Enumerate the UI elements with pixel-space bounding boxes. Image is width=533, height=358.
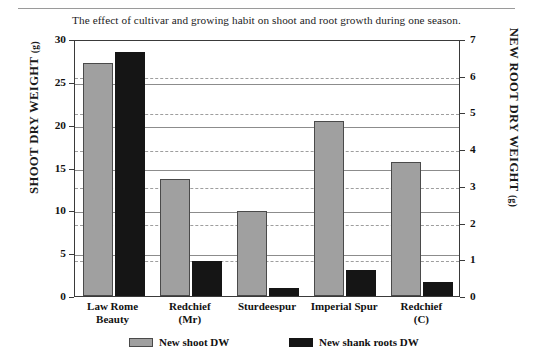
y-tickmark-right-5 xyxy=(460,113,465,114)
x-category-label-line: Redchief xyxy=(377,300,466,313)
y-tickmark-right-6 xyxy=(460,77,465,78)
x-category-label-line: Redchief xyxy=(145,300,234,313)
y-tick-right-6: 6 xyxy=(470,70,496,82)
legend-swatch-icon xyxy=(129,338,153,347)
bar-new-shank-roots-dw-0 xyxy=(115,52,145,296)
bar-new-shoot-dw-2 xyxy=(237,211,267,296)
y-tickmark-right-0 xyxy=(460,297,465,298)
y-tick-right-0: 0 xyxy=(470,290,496,302)
bar-new-shank-roots-dw-1 xyxy=(192,261,222,296)
y-axis-right-unit: (g) xyxy=(508,195,518,207)
x-category-label-line: (C) xyxy=(377,313,466,326)
y-axis-right-title: NEW ROOT DRY WEIGHT (g) xyxy=(506,0,521,238)
y-tickmark-left-5 xyxy=(69,254,74,255)
y-tick-right-4: 4 xyxy=(470,143,496,155)
y-tickmark-left-20 xyxy=(69,126,74,127)
y-tickmark-right-4 xyxy=(460,150,465,151)
x-category-label-line: Law Rome xyxy=(68,300,157,313)
y-tickmark-left-0 xyxy=(69,297,74,298)
legend-item-new-shank-roots-dw[interactable]: New shank roots DW xyxy=(289,336,419,348)
top-divider-rule xyxy=(18,8,515,9)
x-category-label-3: Imperial Spur xyxy=(300,300,389,313)
figure-container: The effect of cultivar and growing habit… xyxy=(0,0,533,358)
y-tickmark-right-3 xyxy=(460,187,465,188)
x-category-label-line: (Mr) xyxy=(145,313,234,326)
y-tick-left-20: 20 xyxy=(40,119,66,131)
legend-item-new-shoot-dw[interactable]: New shoot DW xyxy=(129,336,229,348)
y-tick-left-5: 5 xyxy=(40,247,66,259)
legend-label: New shoot DW xyxy=(159,336,229,348)
y-tick-right-2: 2 xyxy=(470,217,496,229)
x-axis-category-labels: Law RomeBeautyRedchief(Mr)SturdeespurImp… xyxy=(74,300,460,334)
y-tick-left-25: 25 xyxy=(40,76,66,88)
y-tick-right-7: 7 xyxy=(470,33,496,45)
bar-new-shank-roots-dw-4 xyxy=(423,282,453,296)
bar-new-shoot-dw-0 xyxy=(83,63,113,296)
chart-legend: New shoot DWNew shank roots DW xyxy=(74,336,460,354)
y-tick-left-15: 15 xyxy=(40,162,66,174)
y-tick-right-3: 3 xyxy=(470,180,496,192)
y-tickmark-right-7 xyxy=(460,40,465,41)
legend-swatch-icon xyxy=(289,338,313,347)
y-axis-left-title-text: SHOOT DRY WEIGHT xyxy=(27,57,41,194)
x-category-label-line: Sturdeespur xyxy=(222,300,311,313)
x-category-label-1: Redchief(Mr) xyxy=(145,300,234,326)
y-tickmark-left-15 xyxy=(69,169,74,170)
bar-new-shank-roots-dw-2 xyxy=(269,288,299,296)
bar-new-shoot-dw-1 xyxy=(160,179,190,296)
y-axis-left-unit: (g) xyxy=(30,41,40,53)
bar-series-group xyxy=(75,41,459,296)
y-tick-left-30: 30 xyxy=(40,33,66,45)
y-tick-right-1: 1 xyxy=(470,253,496,265)
x-category-label-0: Law RomeBeauty xyxy=(68,300,157,326)
plot-area xyxy=(74,40,460,297)
y-tickmark-left-25 xyxy=(69,83,74,84)
y-tick-left-0: 0 xyxy=(40,290,66,302)
bar-new-shank-roots-dw-3 xyxy=(346,270,376,296)
figure-caption: The effect of cultivar and growing habit… xyxy=(0,14,533,26)
y-axis-right-title-text: NEW ROOT DRY WEIGHT xyxy=(507,28,521,192)
bar-new-shoot-dw-4 xyxy=(391,162,421,296)
x-category-label-4: Redchief(C) xyxy=(377,300,466,326)
bar-new-shoot-dw-3 xyxy=(314,121,344,296)
y-tick-left-10: 10 xyxy=(40,204,66,216)
x-category-label-line: Imperial Spur xyxy=(300,300,389,313)
y-tickmark-right-2 xyxy=(460,224,465,225)
y-tickmark-left-30 xyxy=(69,40,74,41)
y-tickmark-right-1 xyxy=(460,260,465,261)
x-category-label-line: Beauty xyxy=(68,313,157,326)
y-tickmark-left-10 xyxy=(69,211,74,212)
x-category-label-2: Sturdeespur xyxy=(222,300,311,313)
legend-label: New shank roots DW xyxy=(319,336,419,348)
y-tick-right-5: 5 xyxy=(470,106,496,118)
